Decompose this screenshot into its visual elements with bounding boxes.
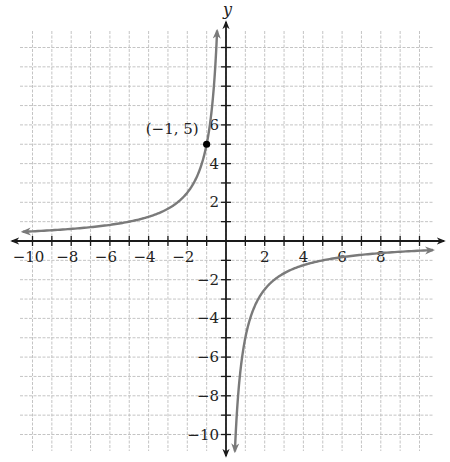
y-tick-label: −4 [197,309,219,327]
y-axis: −10−8−6−4−2246 [187,22,231,456]
x-tick-label: 2 [260,248,270,266]
y-axis-title: y [222,0,233,19]
y-tick-label: −2 [197,271,219,289]
x-tick-label: 8 [376,248,386,266]
y-tick-label: −8 [197,387,219,405]
annotations: (−1, 5) [146,120,211,148]
x-axis: −10−8−6−4−22468 [12,236,444,266]
point-label: (−1, 5) [146,120,199,138]
x-tick-label: −10 [13,248,45,266]
function-graph: −10−8−6−4−22468 −10−8−6−4−2246 (−1, 5) y [0,0,450,462]
x-tick-label: −4 [134,248,156,266]
y-tick-label: 2 [209,193,219,211]
x-tick-label: −8 [56,248,78,266]
x-tick-label: −2 [172,248,194,266]
y-tick-label: 4 [209,155,219,173]
y-tick-label: −6 [197,348,219,366]
y-tick-label: −10 [187,426,219,444]
point-marker [203,141,210,148]
x-tick-label: −6 [95,248,117,266]
